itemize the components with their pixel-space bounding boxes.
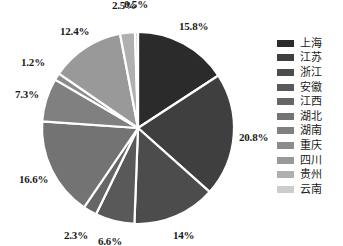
legend-color-swatch [277, 186, 294, 193]
legend-color-swatch [277, 113, 294, 120]
legend-color-swatch [277, 171, 294, 178]
legend-item-label: 重庆 [300, 140, 322, 151]
legend-item[interactable]: 上海 [277, 36, 343, 51]
legend-item-label: 安徽 [300, 82, 322, 93]
legend-item[interactable]: 安徽 [277, 80, 343, 95]
chart-legend: 上海江苏浙江安徽江西湖北湖南重庆四川贵州云南 [277, 36, 343, 197]
pie-slice-label: 15.8% [179, 20, 208, 32]
legend-color-swatch [277, 69, 294, 76]
pie-slice-label: 0.5% [124, 0, 148, 10]
legend-item[interactable]: 江苏 [277, 51, 343, 66]
legend-color-swatch [277, 40, 294, 47]
legend-item[interactable]: 湖北 [277, 109, 343, 124]
legend-item[interactable]: 贵州 [277, 167, 343, 182]
pie-slice-label: 2.3% [64, 229, 88, 241]
legend-item-label: 上海 [300, 38, 322, 49]
legend-color-swatch [277, 127, 294, 134]
legend-color-swatch [277, 54, 294, 61]
pie-chart: 15.8%20.8%14%6.6%2.3%16.6%7.3%1.2%12.4%2… [0, 0, 343, 246]
pie-slice-label: 14% [173, 229, 194, 241]
legend-item-label: 四川 [300, 155, 322, 166]
legend-color-swatch [277, 157, 294, 164]
legend-color-swatch [277, 98, 294, 105]
legend-item[interactable]: 云南 [277, 182, 343, 197]
legend-color-swatch [277, 84, 294, 91]
legend-item-label: 云南 [300, 184, 322, 195]
pie-slice-label: 7.3% [15, 88, 39, 100]
legend-item-label: 湖北 [300, 111, 322, 122]
legend-item-label: 浙江 [300, 67, 322, 78]
legend-item[interactable]: 浙江 [277, 65, 343, 80]
pie-slice-label: 12.4% [60, 25, 89, 37]
pie-slice-label: 20.8% [239, 131, 268, 143]
legend-item-label: 江西 [300, 96, 322, 107]
legend-item[interactable]: 重庆 [277, 138, 343, 153]
pie-slice-label: 16.6% [19, 173, 48, 185]
legend-item[interactable]: 四川 [277, 153, 343, 168]
pie-slice-label: 1.2% [21, 56, 45, 68]
legend-item-label: 贵州 [300, 169, 322, 180]
legend-item-label: 江苏 [300, 52, 322, 63]
legend-item[interactable]: 湖南 [277, 124, 343, 139]
legend-item-label: 湖南 [300, 125, 322, 136]
pie-slice-label: 6.6% [98, 235, 122, 246]
legend-color-swatch [277, 142, 294, 149]
legend-item[interactable]: 江西 [277, 94, 343, 109]
pie-slice-group [42, 32, 234, 224]
